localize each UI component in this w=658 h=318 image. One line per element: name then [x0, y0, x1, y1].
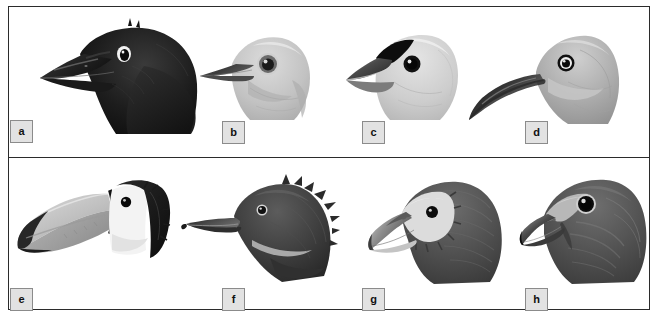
- row-divider: [9, 157, 649, 158]
- vulture-head-illustration: [358, 172, 508, 284]
- panel-f: Dark duck head with a shaggy ragged cres…: [178, 172, 340, 284]
- panel-label-g-text: g: [370, 294, 377, 305]
- panel-label-d-text: d: [533, 127, 540, 138]
- merganser-head-illustration: [178, 172, 340, 284]
- panel-label-a: a: [10, 120, 33, 143]
- panel-label-h-text: h: [533, 294, 540, 305]
- toucan-head-illustration: [12, 172, 184, 280]
- panel-e: Toucan head with an enormous pale keel-s…: [12, 172, 184, 280]
- panel-c: Pale grey finch head with a very deep tr…: [338, 26, 460, 122]
- panel-label-b-text: b: [230, 127, 237, 138]
- bird-head-figure-plate: Black corvid head in left profile with h…: [0, 0, 658, 318]
- panel-d: Grey wader head with an extremely long s…: [462, 22, 622, 126]
- finch-head-illustration: [338, 26, 460, 122]
- panel-a: Black corvid head in left profile with h…: [24, 14, 204, 136]
- hawk-head-illustration: [510, 172, 650, 284]
- panel-label-e-text: e: [18, 294, 24, 305]
- panel-label-g: g: [362, 288, 385, 311]
- panel-label-c: c: [362, 121, 385, 144]
- panel-label-d: d: [525, 121, 548, 144]
- panel-label-h: h: [525, 288, 548, 311]
- panel-label-b: b: [222, 121, 245, 144]
- panel-label-f-text: f: [232, 294, 236, 305]
- panel-label-c-text: c: [370, 127, 376, 138]
- panel-h: Accipiter or buteo head with a short dee…: [510, 172, 650, 284]
- panel-b: Plain pale grey rounded songbird head wi…: [196, 24, 314, 122]
- crow-head-illustration: [24, 14, 204, 136]
- panel-label-a-text: a: [18, 126, 24, 137]
- panel-g: Vulture head with a bare whitish face, d…: [358, 172, 508, 284]
- curlew-head-illustration: [462, 22, 622, 126]
- panel-label-e: e: [10, 288, 33, 311]
- pale-songbird-head-illustration: [196, 24, 314, 122]
- panel-label-f: f: [222, 288, 245, 311]
